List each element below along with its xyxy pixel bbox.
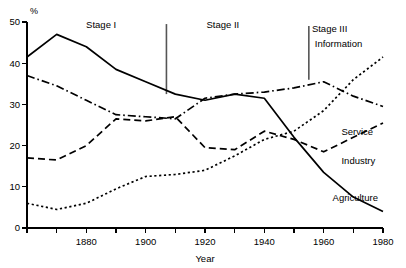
y-tick-label: 30 [9, 99, 20, 110]
y-axis-tick-labels: 01020304050 [9, 16, 20, 233]
x-tick-label: 1920 [194, 236, 215, 247]
series-label-information: Information [315, 38, 363, 49]
x-tick-label: 1960 [313, 236, 334, 247]
series-line-agriculture [27, 34, 383, 211]
series-line-industry [27, 117, 383, 160]
y-tick-label: 40 [9, 58, 20, 69]
stage-2-label: Stage II [206, 19, 239, 30]
series-label-service: Service [341, 126, 373, 137]
y-tick-label: 50 [9, 16, 20, 27]
series-inline-labels: AgricultureIndustryServiceInformation [315, 38, 378, 203]
x-tick-label: 1880 [76, 236, 97, 247]
economic-stages-line-chart: 01020304050 188019001920194019601980 % Y… [0, 0, 406, 268]
series-label-agriculture: Agriculture [333, 192, 378, 203]
data-series-group [27, 34, 383, 211]
series-line-information [27, 57, 383, 209]
chart-container: 01020304050 188019001920194019601980 % Y… [0, 0, 406, 268]
x-tick-label: 1980 [372, 236, 393, 247]
x-tick-label: 1940 [254, 236, 275, 247]
x-tick-label: 1900 [135, 236, 156, 247]
stage-1-label: Stage I [86, 19, 116, 30]
stage-3-label: Stage III [312, 23, 347, 34]
y-tick-label: 20 [9, 140, 20, 151]
x-axis-tick-labels: 188019001920194019601980 [76, 236, 394, 247]
y-tick-label: 0 [15, 222, 20, 233]
series-line-service [27, 76, 383, 119]
stage-divider-lines [166, 24, 308, 94]
y-axis-unit-label: % [30, 6, 38, 16]
series-label-industry: Industry [341, 155, 375, 166]
chart-axes [27, 22, 383, 228]
y-tick-label: 10 [9, 181, 20, 192]
axes-group [27, 22, 383, 228]
x-axis-title: Year [195, 253, 214, 264]
